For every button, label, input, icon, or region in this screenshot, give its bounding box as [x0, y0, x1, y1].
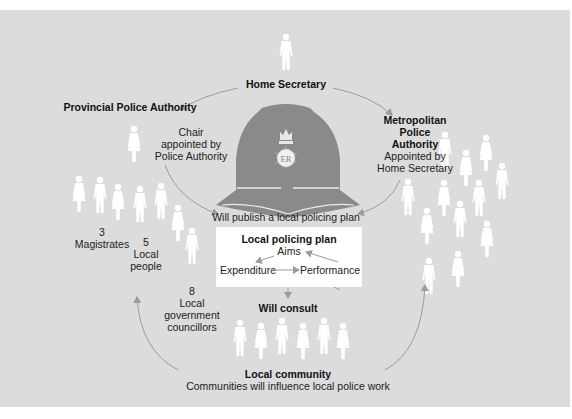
local-people-label: 5 Local people	[128, 236, 164, 272]
chair-note: Chair appointed by Police Authority	[146, 126, 236, 162]
home-secretary-figure-icon	[280, 34, 293, 70]
councillors-label: 8 Local government councillors	[162, 285, 222, 333]
community-subtitle: Communities will influence local police …	[176, 380, 400, 392]
community-figures-icon	[234, 318, 350, 359]
arrow-community-to-metropolitan-icon	[385, 285, 425, 370]
arrow-metropolitan-to-plan-icon	[358, 180, 400, 214]
svg-text:ER: ER	[281, 154, 292, 164]
police-helmet-icon: ER	[216, 104, 360, 218]
plan-performance: Performance	[300, 264, 360, 276]
provincial-title: Provincial Police Authority	[60, 101, 200, 113]
plan-title: Local policing plan	[216, 233, 362, 245]
will-consult-label: Will consult	[238, 302, 338, 314]
publish-text: Will publish a local policing plan	[196, 211, 376, 223]
diagram-graphics: ER	[0, 0, 572, 419]
arrow-provincial-to-plan-icon	[165, 165, 218, 214]
arrow-to-metropolitan-icon	[333, 88, 392, 115]
community-title: Local community	[226, 368, 350, 380]
plan-expenditure: Expenditure	[218, 264, 278, 276]
magistrates-label: 3 Magistrates	[72, 226, 132, 250]
metropolitan-authority: Metropolitan Police Authority Appointed …	[370, 114, 460, 174]
chair-figure-icon	[128, 126, 141, 162]
plan-aims: Aims	[216, 245, 362, 257]
home-secretary-label: Home Secretary	[236, 78, 336, 90]
